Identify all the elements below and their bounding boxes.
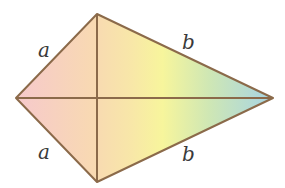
kite-diagram: a a b b bbox=[0, 0, 285, 188]
label-top-left: a bbox=[38, 38, 50, 62]
label-bottom-right: b bbox=[182, 142, 195, 166]
label-bottom-left: a bbox=[38, 140, 50, 164]
label-top-right: b bbox=[182, 30, 195, 54]
